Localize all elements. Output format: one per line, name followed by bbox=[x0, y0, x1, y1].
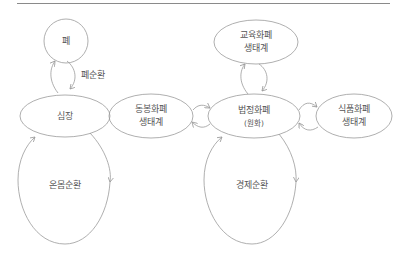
heart-label: 심장 bbox=[57, 111, 73, 121]
food-ecosystem-label: 생태계 bbox=[342, 116, 366, 127]
lung-label: 폐 bbox=[62, 35, 70, 46]
body-circulation: 폐 폐순환 심장 온몸순환 bbox=[18, 19, 110, 244]
circulation-diagram: 폐 폐순환 심장 온몸순환 교육화폐 생태계 bbox=[0, 0, 404, 261]
lung-node: 폐 bbox=[44, 19, 88, 63]
mutual-legal-loop bbox=[192, 105, 210, 127]
systemic-loop-label: 온몸순환 bbox=[49, 179, 81, 190]
food-currency-label: 식품화폐 bbox=[338, 103, 370, 114]
mutual-ecosystem-label: 생태계 bbox=[139, 116, 163, 127]
education-currency-node: 교육화폐 생태계 bbox=[214, 20, 298, 64]
systemic-loop: 온몸순환 bbox=[18, 133, 110, 244]
food-currency-node: 식품화폐 생태계 bbox=[316, 94, 392, 138]
legal-currency-label: 법정화폐 bbox=[238, 104, 270, 115]
mutual-currency-label: 동봉화폐 bbox=[135, 103, 167, 114]
legal-currency-sub-label: (원화) bbox=[244, 119, 264, 128]
education-legal-loop bbox=[241, 64, 267, 94]
legal-food-loop bbox=[299, 103, 318, 130]
pulmonary-loop-label: 폐순환 bbox=[81, 69, 105, 80]
pulmonary-loop: 폐순환 bbox=[51, 61, 105, 93]
economic-circulation: 교육화폐 생태계 법정화폐 (원화) 동봉화폐 생태계 식품화폐 생 bbox=[109, 20, 392, 244]
mutual-currency-node: 동봉화폐 생태계 bbox=[109, 94, 193, 138]
education-currency-label: 교육화폐 bbox=[240, 29, 272, 40]
economic-loop: 경제순환 bbox=[204, 134, 296, 244]
education-ecosystem-label: 생태계 bbox=[244, 42, 268, 53]
heart-node: 심장 bbox=[20, 95, 110, 137]
legal-currency-node: 법정화폐 (원화) bbox=[208, 94, 300, 138]
economic-loop-label: 경제순환 bbox=[236, 179, 268, 190]
